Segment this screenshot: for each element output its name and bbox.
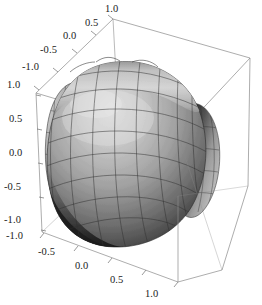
tick-label: 0.5 <box>110 275 123 286</box>
tick-label: -0.5 <box>40 45 57 56</box>
tick-label: -1.0 <box>22 62 39 73</box>
tick-label: 1.0 <box>145 289 158 300</box>
tick-label: 0.0 <box>63 31 76 42</box>
tick-label: -0.5 <box>38 247 55 258</box>
tick-label: -1.0 <box>6 231 23 242</box>
tick-label: 0.0 <box>75 261 88 272</box>
tick-label: 0.5 <box>85 18 98 29</box>
plot-3d-surface: -1.0 -0.5 0.0 0.5 1.0 1.0 0.5 0.0 -0.5 -… <box>0 0 262 305</box>
surface-main-body <box>34 57 212 262</box>
tick-label: 0.0 <box>9 148 22 159</box>
tick-label: -0.5 <box>4 182 21 193</box>
tick-label: 1.0 <box>7 80 20 91</box>
tick-label: 0.5 <box>9 114 22 125</box>
tick-label: -1.0 <box>4 215 21 226</box>
tick-label: 1.0 <box>105 4 118 15</box>
